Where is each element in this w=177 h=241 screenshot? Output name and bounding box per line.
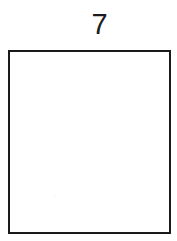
figure-number-label: 7 xyxy=(0,9,177,39)
figure-root: 7 xyxy=(0,0,177,241)
rectangle-interior xyxy=(10,52,169,232)
rectangle-shape xyxy=(8,50,171,234)
scan-artifact-speck xyxy=(54,194,57,198)
